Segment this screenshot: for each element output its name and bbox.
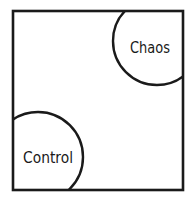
chaos-control-diagram: Chaos Control [0, 0, 196, 201]
control-label: Control [23, 149, 73, 167]
chaos-label: Chaos [130, 39, 170, 57]
